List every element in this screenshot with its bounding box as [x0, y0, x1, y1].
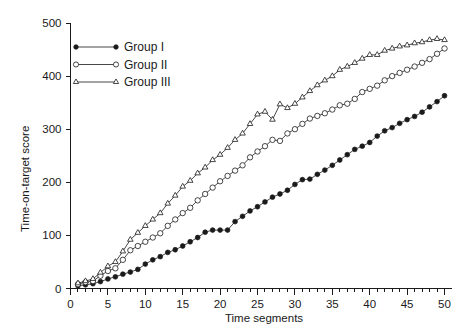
data-point-marker [98, 279, 103, 284]
x-tick-label: 40 [363, 298, 376, 310]
x-axis-title: Time segments [225, 312, 303, 324]
data-point-marker [330, 163, 335, 168]
data-point-marker [128, 270, 133, 275]
data-point-marker [405, 117, 410, 122]
data-point-marker [195, 198, 200, 203]
data-point-marker [442, 46, 447, 51]
data-point-marker [248, 209, 253, 214]
data-point-marker [232, 168, 237, 173]
series-markers [76, 93, 447, 288]
data-point-marker [427, 37, 433, 42]
x-tick-label: 30 [289, 298, 302, 310]
data-point-marker [143, 262, 148, 267]
data-point-marker [270, 195, 275, 200]
data-point-marker [73, 79, 78, 84]
legend-item-1: Group I [74, 40, 164, 54]
y-tick-label: 0 [55, 283, 61, 295]
data-point-marker [352, 96, 357, 101]
data-point-marker [270, 137, 275, 142]
series-line [78, 96, 445, 286]
x-tick-label: 25 [251, 298, 264, 310]
data-point-marker [375, 134, 380, 139]
data-point-marker [435, 99, 440, 104]
data-point-marker [232, 137, 238, 142]
data-point-marker [217, 151, 223, 156]
x-tick-label: 5 [105, 298, 111, 310]
x-axis-tick-labels: 05101520253035404550 [67, 298, 451, 310]
data-point-marker [262, 143, 267, 148]
data-point-marker [113, 62, 118, 67]
x-tick-label: 20 [214, 298, 227, 310]
legend-label: Group II [124, 58, 167, 72]
x-tick-label: 10 [139, 298, 152, 310]
data-point-marker [150, 235, 155, 240]
data-point-marker [345, 152, 350, 157]
data-point-marker [420, 110, 425, 115]
data-point-marker [337, 158, 342, 163]
data-point-marker [150, 257, 155, 262]
data-point-marker [143, 239, 148, 244]
x-tick-label: 0 [67, 298, 73, 310]
series-1 [76, 93, 447, 288]
data-point-marker [135, 243, 140, 248]
line-chart-plot: 0100200300400500 05101520253035404550 Ti… [0, 0, 473, 332]
data-point-marker [367, 86, 372, 91]
data-point-marker [210, 157, 216, 162]
data-point-marker [210, 228, 215, 233]
data-point-marker [293, 182, 298, 187]
data-point-marker [128, 248, 133, 253]
data-point-marker [165, 250, 170, 255]
data-series-layer [75, 36, 447, 289]
data-point-marker [105, 268, 110, 273]
data-point-marker [345, 101, 350, 106]
data-point-marker [262, 108, 268, 113]
data-point-marker [434, 51, 439, 56]
y-tick-label: 100 [42, 229, 61, 241]
y-axis-ticks [66, 23, 71, 289]
data-point-marker [165, 223, 170, 228]
data-point-marker [412, 64, 417, 69]
data-point-marker [210, 185, 215, 190]
data-point-marker [390, 125, 395, 130]
data-point-marker [195, 170, 201, 175]
data-point-marker [120, 257, 125, 262]
data-point-marker [255, 149, 260, 154]
data-point-marker [135, 267, 140, 272]
x-tick-label: 15 [176, 298, 189, 310]
data-point-marker [113, 274, 118, 279]
data-point-marker [300, 177, 305, 182]
data-point-marker [292, 101, 298, 106]
data-point-marker [173, 247, 178, 252]
data-point-marker [442, 93, 447, 98]
data-point-marker [195, 235, 200, 240]
y-tick-label: 300 [42, 123, 61, 135]
data-point-marker [150, 216, 156, 221]
data-point-marker [158, 231, 163, 236]
data-point-marker [352, 147, 357, 152]
data-point-marker [180, 183, 186, 188]
data-point-marker [397, 70, 402, 75]
data-point-marker [412, 114, 417, 119]
data-point-marker [202, 191, 207, 196]
data-point-marker [277, 138, 282, 143]
data-point-marker [292, 127, 297, 132]
data-point-marker [285, 188, 290, 193]
data-point-marker [300, 94, 306, 99]
data-point-marker [158, 254, 163, 259]
data-point-marker [434, 36, 440, 41]
data-point-marker [217, 179, 222, 184]
data-point-marker [188, 239, 193, 244]
y-axis-tick-labels: 0100200300400500 [42, 17, 61, 295]
data-point-marker [74, 45, 79, 50]
data-point-marker [73, 62, 78, 67]
data-point-marker [143, 223, 149, 228]
data-point-marker [180, 244, 185, 249]
data-point-marker [360, 89, 365, 94]
data-point-marker [128, 236, 134, 241]
data-point-marker [187, 205, 192, 210]
data-point-marker [404, 67, 409, 72]
data-point-marker [307, 177, 312, 182]
y-tick-label: 400 [42, 70, 61, 82]
data-point-marker [419, 60, 424, 65]
data-point-marker [278, 192, 283, 197]
